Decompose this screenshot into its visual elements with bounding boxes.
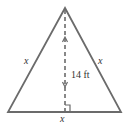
left-side-label: x xyxy=(24,56,28,66)
right-side-label: x xyxy=(98,56,102,66)
triangle-figure xyxy=(0,0,127,127)
height-label: 14 ft xyxy=(71,70,90,80)
base-label: x xyxy=(60,114,64,124)
triangle-diagram: x x x 14 ft xyxy=(0,0,127,127)
